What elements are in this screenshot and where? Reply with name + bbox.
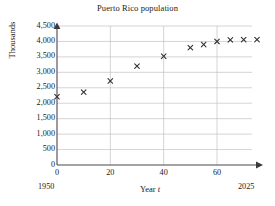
data-point xyxy=(255,37,260,42)
x-axis-arrow xyxy=(256,162,263,169)
plot-area xyxy=(0,0,275,206)
data-point xyxy=(135,64,140,69)
axes xyxy=(54,23,263,169)
data-point xyxy=(188,45,193,50)
gridlines xyxy=(57,26,252,165)
data-point xyxy=(81,90,86,95)
data-point xyxy=(201,42,206,47)
data-markers xyxy=(55,37,260,99)
chart-figure: Puerto Rico population Thousands Year t … xyxy=(0,0,275,206)
